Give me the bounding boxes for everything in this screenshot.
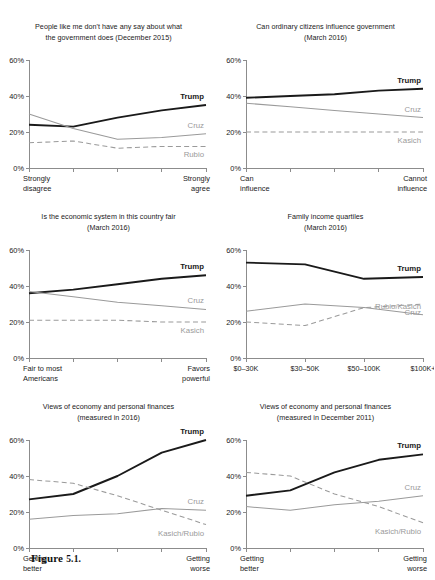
series-label-kasich-rubio: Kasich/Rubio: [158, 529, 205, 538]
figure-caption-label: Figure: [31, 552, 63, 564]
x-axis-end-label: agree: [191, 184, 210, 193]
y-tick-label: 40%: [9, 472, 24, 481]
chart-panel-ordinary-citizens-influence: Can ordinary citizens influence governme…: [217, 14, 434, 204]
y-tick-label: 60%: [9, 436, 24, 445]
series-label-trump: Trump: [397, 264, 421, 273]
figure-caption-number: 5.1.: [66, 554, 81, 564]
x-axis-end-label: powerful: [182, 374, 210, 383]
y-tick-label: 20%: [9, 508, 24, 517]
series-label-cruz: Cruz: [405, 308, 422, 317]
x-axis-end-label: Fair to most: [23, 364, 62, 373]
series-label-cruz: Cruz: [188, 121, 205, 130]
chart-svg-ordinary-citizens-influence: 0%20%40%60%CaninfluenceCannotinfluenceTr…: [217, 14, 434, 204]
series-label-trump: Trump: [180, 92, 204, 101]
series-line-rubio: [29, 141, 206, 148]
x-axis-end-label: better: [240, 564, 259, 573]
x-axis-end-label: Strongly: [23, 174, 50, 183]
y-tick-label: 20%: [9, 128, 24, 137]
y-tick-label: 0%: [230, 354, 241, 363]
series-line-trump: [29, 105, 206, 127]
chart-svg-family-income-quartiles: 0%20%40%60%$0–30K$30–50K$50–100K$100K+Tr…: [217, 204, 434, 394]
y-tick-label: 20%: [226, 508, 241, 517]
series-line-cruz: [246, 496, 423, 510]
x-axis-end-label: Americans: [23, 374, 58, 383]
chart-svg-economic-system-fair: 0%20%40%60%Fair to mostAmericansFavorspo…: [0, 204, 217, 394]
series-line-trump: [246, 89, 423, 98]
series-label-kasich: Kasich: [398, 136, 421, 145]
figure-panel-grid: People like me don't have any say about …: [0, 0, 435, 548]
series-line-cruz: [29, 291, 206, 309]
series-line-trump: [29, 440, 206, 499]
chart-axes: 0%20%40%60%: [9, 246, 206, 363]
x-tick-label: $0–30K: [234, 364, 259, 373]
series-label-cruz: Cruz: [188, 497, 205, 506]
plot-area-1: 0%20%40%60%CaninfluenceCannotinfluenceTr…: [217, 14, 434, 204]
y-tick-label: 0%: [13, 544, 24, 553]
x-axis-end-label: Strongly: [183, 174, 210, 183]
series-label-cruz: Cruz: [405, 105, 422, 114]
series-label-trump: Trump: [180, 427, 204, 436]
x-tick-label: $30–50K: [291, 364, 320, 373]
y-tick-label: 0%: [230, 544, 241, 553]
series-line-trump: [246, 454, 423, 495]
x-axis-end-label: Getting: [240, 554, 264, 563]
series-line-cruz: [29, 508, 206, 519]
y-tick-label: 40%: [226, 282, 241, 291]
chart-panel-views-economy-2011: Views of economy and personal finances (…: [217, 394, 434, 580]
series-label-trump: Trump: [180, 262, 204, 271]
series-label-kasich-rubio: Kasich/Rubio: [375, 527, 422, 536]
chart-axes: 0%20%40%60%: [226, 56, 423, 173]
x-axis-end-label: Cannot: [403, 174, 427, 183]
y-tick-label: 40%: [9, 282, 24, 291]
y-tick-label: 60%: [226, 436, 241, 445]
chart-axes: 0%20%40%60%: [9, 56, 206, 173]
plot-area-3: 0%20%40%60%$0–30K$30–50K$50–100K$100K+Tr…: [217, 204, 434, 394]
x-axis-end-label: better: [23, 564, 42, 573]
plot-area-0: 0%20%40%60%StronglydisagreeStronglyagree…: [0, 14, 217, 204]
y-tick-label: 60%: [9, 246, 24, 255]
x-axis-end-label: Getting: [403, 554, 427, 563]
series-label-rubio: Rubio: [184, 150, 205, 159]
y-tick-label: 60%: [226, 56, 241, 65]
x-axis-end-label: Favors: [187, 364, 210, 373]
x-axis-end-label: Getting: [186, 554, 210, 563]
figure-caption: Figure 5.1.: [31, 552, 81, 564]
series-line-kasich-rubio: [29, 480, 206, 525]
series-label-cruz: Cruz: [405, 483, 422, 492]
y-tick-label: 40%: [9, 92, 24, 101]
series-line-kasich: [29, 320, 206, 322]
x-axis-end-label: worse: [189, 564, 210, 573]
series-label-trump: Trump: [397, 76, 421, 85]
series-label-cruz: Cruz: [188, 296, 205, 305]
x-axis-end-label: Can: [240, 174, 254, 183]
y-tick-label: 60%: [226, 246, 241, 255]
chart-svg-say-in-government: 0%20%40%60%StronglydisagreeStronglyagree…: [0, 14, 217, 204]
y-tick-label: 20%: [226, 128, 241, 137]
chart-svg-views-economy-2011: 0%20%40%60%GettingbetterGettingworseTrum…: [217, 394, 434, 580]
y-tick-label: 20%: [226, 318, 241, 327]
x-axis-end-label: influence: [240, 184, 270, 193]
x-axis-end-label: worse: [406, 564, 427, 573]
y-tick-label: 20%: [9, 318, 24, 327]
plot-area-2: 0%20%40%60%Fair to mostAmericansFavorspo…: [0, 204, 217, 394]
series-label-trump: Trump: [397, 441, 421, 450]
chart-panel-say-in-government: People like me don't have any say about …: [0, 14, 217, 204]
y-tick-label: 0%: [13, 164, 24, 173]
y-tick-label: 0%: [13, 354, 24, 363]
y-tick-label: 0%: [230, 164, 241, 173]
chart-panel-economic-system-fair: Is the economic system in this country f…: [0, 204, 217, 394]
x-axis-end-label: influence: [397, 184, 427, 193]
series-line-cruz: [246, 103, 423, 117]
x-tick-label: $100K+: [411, 364, 434, 373]
chart-panel-family-income-quartiles: Family income quartiles (March 2016) 0%2…: [217, 204, 434, 394]
series-label-kasich: Kasich: [181, 326, 204, 335]
y-tick-label: 60%: [9, 56, 24, 65]
x-tick-label: $50–100K: [348, 364, 381, 373]
series-line-kasich-rubio: [246, 472, 423, 522]
plot-area-5: 0%20%40%60%GettingbetterGettingworseTrum…: [217, 394, 434, 580]
x-axis-end-label: disagree: [23, 184, 51, 193]
y-tick-label: 40%: [226, 92, 241, 101]
y-tick-label: 40%: [226, 472, 241, 481]
series-line-trump: [29, 275, 206, 293]
